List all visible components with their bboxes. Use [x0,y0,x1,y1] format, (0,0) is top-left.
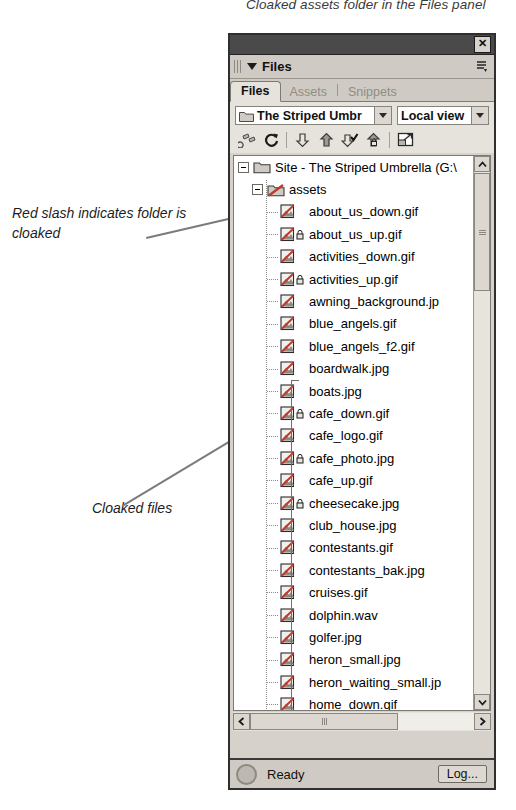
tree-row-file[interactable]: cheesecake.jpg [234,492,473,514]
log-button[interactable]: Log... [438,765,487,783]
file-name-label: contestants.gif [309,540,393,555]
image-file-cloaked-icon [280,384,295,399]
expand-collapse-icon [397,132,414,147]
refresh-button[interactable] [259,130,283,150]
file-name-label: dolphin.wav [309,608,378,623]
tree-row-file[interactable]: cafe_logo.gif [234,425,473,447]
folder-cloaked-icon-wrap [267,183,285,197]
file-name-label: activities_up.gif [309,272,398,287]
file-icon-wrap [280,652,295,667]
panel-drag-grip[interactable] [234,60,242,73]
arrow-up-lock-icon [366,132,382,148]
tree-row-file[interactable]: contestants.gif [234,537,473,559]
file-name-label: blue_angels_f2.gif [309,339,415,354]
tree-row-file[interactable]: cafe_photo.jpg [234,447,473,469]
tree-guide-horizontal [267,660,279,661]
figure-caption-top: Cloaked assets folder in the Files panel [246,0,516,12]
file-name-label: cafe_photo.jpg [309,451,394,466]
site-select[interactable]: The Striped Umbr [235,106,392,125]
tree-row-file[interactable]: activities_up.gif [234,268,473,290]
image-file-cloaked-icon [280,697,295,710]
tree-row-site-root[interactable]: Site - The Striped Umbrella (G:\ [234,156,473,178]
file-name-label: cruises.gif [309,585,368,600]
vertical-scrollbar[interactable] [473,156,490,710]
tab-assets[interactable]: Assets [281,83,337,102]
file-name-label: cafe_up.gif [309,473,373,488]
file-icon-wrap [280,428,295,443]
vertical-scroll-thumb[interactable] [474,173,490,291]
lock-icon [296,498,304,509]
connect-to-remote-host-button[interactable] [235,130,259,150]
tree-row-file[interactable]: about_us_down.gif [234,201,473,223]
tree-row-file[interactable]: cafe_down.gif [234,402,473,424]
tab-snippets[interactable]: Snippets [339,83,406,102]
tree-row-file[interactable]: boats.jpg [234,380,473,402]
tree-row-file[interactable]: heron_small.jpg [234,649,473,671]
tree-row-file[interactable]: heron_waiting_small.jp [234,671,473,693]
tree-guide-horizontal [267,369,279,370]
tree-guide-horizontal [267,548,279,549]
tree-guide-horizontal [267,525,279,526]
file-name-label: cheesecake.jpg [309,496,399,511]
panel-options-menu-icon[interactable] [475,59,489,73]
file-name-label: cafe_down.gif [309,406,389,421]
tree-guide-horizontal [267,413,279,414]
image-file-cloaked-icon [280,361,295,376]
tree-row-file[interactable]: blue_angels_f2.gif [234,335,473,357]
close-icon[interactable]: ✕ [474,36,491,53]
scroll-right-button[interactable] [474,713,491,730]
tree-row-file[interactable]: contestants_bak.jpg [234,559,473,581]
horizontal-scrollbar[interactable] [233,712,491,731]
refresh-icon [263,132,280,148]
view-select[interactable]: Local view [397,106,489,125]
tree-guide-horizontal [267,234,279,235]
put-files-button[interactable] [314,130,338,150]
horizontal-scroll-thumb[interactable] [250,713,398,730]
expand-toggle-assets[interactable] [252,184,263,195]
tree-row-file[interactable]: golfer.jpg [234,626,473,648]
tree-row-file[interactable]: activities_down.gif [234,246,473,268]
folder-icon-wrap [253,160,271,174]
tree-row-assets-folder[interactable]: assets [234,178,473,200]
window-titlebar: ✕ [230,35,494,55]
tree-guide-horizontal [267,503,279,504]
image-file-cloaked-icon [280,540,295,555]
tree-row-file[interactable]: cruises.gif [234,581,473,603]
tree-row-file[interactable]: dolphin.wav [234,604,473,626]
file-name-label: home_down.gif [309,697,397,710]
expand-toggle-site-root[interactable] [238,162,249,173]
get-files-button[interactable] [290,130,314,150]
tree-row-file[interactable]: blue_angels.gif [234,313,473,335]
lock-slot [295,408,305,419]
check-out-button[interactable] [338,130,362,150]
folder-icon [239,110,254,122]
chevron-down-icon[interactable] [247,63,257,70]
tree-row-file[interactable]: about_us_up.gif [234,223,473,245]
scroll-left-button[interactable] [233,713,250,730]
panel-header: Files [230,55,494,79]
scroll-down-button[interactable] [474,694,490,710]
file-icon-wrap [280,496,295,511]
scroll-up-button[interactable] [474,156,490,172]
horizontal-scroll-track[interactable] [250,713,474,730]
tree-row-file[interactable]: home_down.gif [234,693,473,710]
view-select-arrow[interactable] [471,107,488,124]
file-name-label: heron_waiting_small.jp [309,675,441,690]
check-in-button[interactable] [362,130,386,150]
tree-row-label: Site - The Striped Umbrella (G:\ [275,160,457,175]
image-file-cloaked-icon [280,518,295,533]
lock-slot [295,274,305,285]
lock-icon [296,229,304,240]
file-tree-list[interactable]: Site - The Striped Umbrella (G:\assetsab… [233,155,491,711]
tree-row-file[interactable]: awning_background.jp [234,290,473,312]
expand-collapse-button[interactable] [393,130,417,150]
tree-row-file[interactable]: club_house.jpg [234,514,473,536]
tab-files[interactable]: Files [230,81,281,102]
tree-row-file[interactable]: cafe_up.gif [234,469,473,491]
tree-guide-horizontal [267,704,279,705]
site-select-arrow[interactable] [374,107,391,124]
image-file-cloaked-icon [280,428,295,443]
file-name-label: about_us_up.gif [309,227,402,242]
tree-row-file[interactable]: boardwalk.jpg [234,358,473,380]
tree-guide-horizontal [267,279,279,280]
